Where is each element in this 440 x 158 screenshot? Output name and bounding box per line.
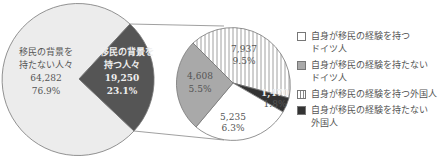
label-bg-line2: 持つ人々 [104, 59, 140, 70]
label-german-noexp-pct: 5.5% [189, 84, 212, 94]
label-bg-line1: 移民の背景を [100, 46, 154, 57]
legend-item-german-exp: 自身が移民の経験を持つ ドイツ人 [297, 30, 440, 56]
legend-item-german-noexp: 自身が移民の経験を持たない ドイツ人 [297, 59, 440, 85]
swatch-black-icon [297, 106, 306, 115]
label-foreign-noexp-value: 1,470 [261, 88, 289, 99]
legend-item-foreign-exp: 自身が移民の経験を持つ外国人 [297, 88, 440, 101]
label-no-bg-pct: 76.9% [32, 86, 61, 96]
legend-label-2: 外国人 [311, 117, 428, 130]
label-no-bg-value: 64,282 [30, 73, 62, 83]
legend: 自身が移民の経験を持つ ドイツ人 自身が移民の経験を持たない ドイツ人 自身が移… [297, 30, 440, 133]
label-foreign-exp-value: 7,937 [231, 44, 257, 54]
swatch-stripes-icon [297, 90, 306, 99]
legend-label-2: ドイツ人 [311, 72, 428, 85]
label-german-exp-pct: 6.3% [222, 123, 245, 133]
legend-item-foreign-noexp: 自身が移民の経験を持たない 外国人 [297, 104, 440, 130]
label-no-bg-line1: 移民の背景を [19, 46, 73, 57]
label-german-noexp-value: 4,608 [187, 71, 213, 81]
label-bg-value: 19,250 [105, 73, 139, 84]
legend-label-2: ドイツ人 [311, 43, 410, 56]
legend-label: 自身が移民の経験を持たない [311, 104, 428, 117]
legend-label: 自身が移民の経験を持たない [311, 59, 428, 72]
label-foreign-noexp-pct: 1.8% [264, 99, 287, 109]
label-bg-pct: 23.1% [107, 86, 138, 96]
legend-label: 自身が移民の経験を持つ外国人 [311, 88, 437, 101]
swatch-white-icon [297, 32, 306, 41]
legend-label: 自身が移民の経験を持つ [311, 30, 410, 43]
label-german-exp-value: 5,235 [220, 112, 246, 122]
label-no-bg-line2: 持たない人々 [19, 59, 73, 70]
swatch-gray-icon [297, 61, 306, 70]
label-foreign-exp-pct: 9.5% [233, 56, 256, 66]
connector-top [130, 24, 224, 26]
